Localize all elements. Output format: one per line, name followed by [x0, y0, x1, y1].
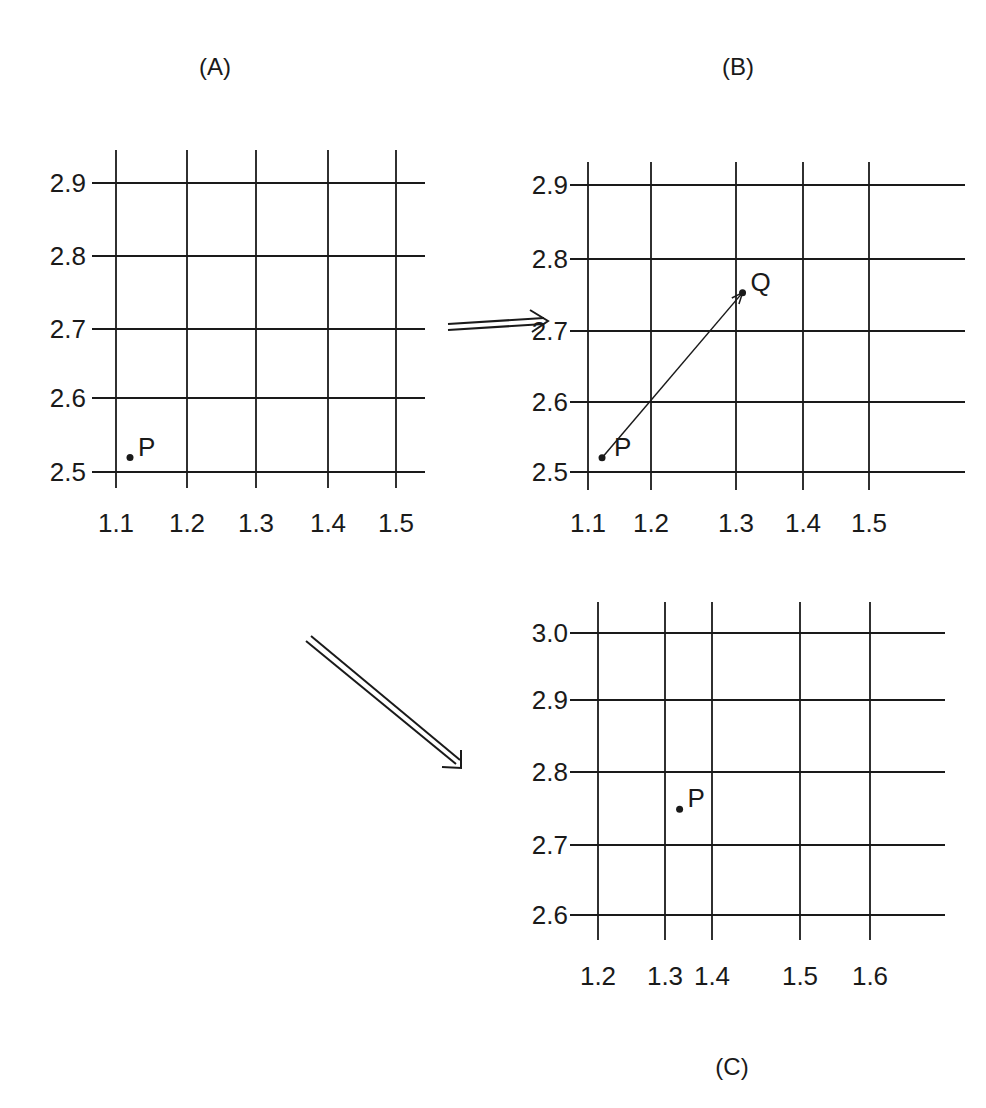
x-tick-label: 1.1 [98, 508, 134, 538]
panel-c: 2.62.72.82.93.01.21.31.41.51.6(C)P [532, 602, 945, 1080]
y-tick-label: 2.8 [532, 244, 568, 274]
point-label: P [688, 783, 705, 813]
x-tick-label: 1.4 [310, 508, 346, 538]
y-tick-label: 2.7 [532, 830, 568, 860]
y-tick-label: 2.6 [50, 383, 86, 413]
x-tick-label: 1.5 [851, 508, 887, 538]
panel-title: (A) [199, 53, 231, 80]
point-label: P [614, 432, 631, 462]
double-arrow-a-to-c [306, 636, 461, 768]
y-tick-label: 2.5 [50, 457, 86, 487]
y-tick-label: 2.8 [532, 757, 568, 787]
x-tick-label: 1.2 [580, 961, 616, 991]
y-tick-label: 2.6 [532, 900, 568, 930]
y-tick-label: 2.5 [532, 457, 568, 487]
x-tick-label: 1.3 [647, 961, 683, 991]
displacement-vector [602, 293, 743, 458]
x-tick-label: 1.5 [782, 961, 818, 991]
y-tick-label: 2.6 [532, 387, 568, 417]
x-tick-label: 1.2 [169, 508, 205, 538]
point-marker [127, 454, 134, 461]
panel-a: 2.52.62.72.82.91.11.21.31.41.5(A)P [50, 53, 425, 538]
point-marker [676, 806, 683, 813]
y-tick-label: 2.7 [532, 316, 568, 346]
x-tick-label: 1.2 [633, 508, 669, 538]
x-tick-label: 1.4 [785, 508, 821, 538]
y-tick-label: 2.9 [50, 168, 86, 198]
y-tick-label: 2.9 [532, 170, 568, 200]
y-tick-label: 2.7 [50, 314, 86, 344]
x-tick-label: 1.3 [718, 508, 754, 538]
panel-title: (C) [715, 1053, 748, 1080]
panel-b: 2.52.62.72.82.91.11.21.31.41.5(B)PQ [532, 53, 965, 538]
x-tick-label: 1.3 [238, 508, 274, 538]
coordinate-shift-diagram: 2.52.62.72.82.91.11.21.31.41.5(A)P 2.52.… [0, 0, 986, 1108]
x-tick-label: 1.1 [570, 508, 606, 538]
y-tick-label: 2.8 [50, 241, 86, 271]
y-tick-label: 2.9 [532, 685, 568, 715]
point-label: P [138, 432, 155, 462]
x-tick-label: 1.6 [852, 961, 888, 991]
point-label: Q [751, 267, 771, 297]
x-tick-label: 1.4 [694, 961, 730, 991]
y-tick-label: 3.0 [532, 618, 568, 648]
x-tick-label: 1.5 [378, 508, 414, 538]
panel-title: (B) [722, 53, 754, 80]
